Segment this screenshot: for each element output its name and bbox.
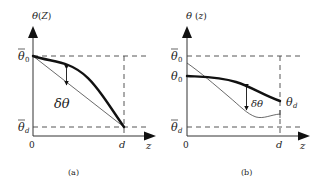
svg-text:d: d (293, 102, 298, 110)
y-axis-arrow-icon (182, 26, 192, 38)
y-axis-label: θ(Z) (32, 10, 51, 21)
svg-text:0: 0 (25, 56, 29, 64)
end-value-label: θ d (286, 96, 298, 110)
lower-bound-label: θ d (171, 120, 183, 135)
lower-bound-label: θ d (18, 120, 30, 135)
x-end-label: d (119, 139, 125, 150)
svg-text:θ: θ (171, 50, 178, 63)
x-end-label: d (276, 139, 282, 150)
svg-text:θ: θ (171, 121, 178, 134)
panel-a-caption: (a) (68, 168, 79, 177)
svg-text:θ: θ (18, 121, 25, 134)
panel-a: θ(Z) θ 0 θ d δθ 0 d z (a) (18, 10, 156, 177)
upper-bound-label: θ 0 (18, 49, 29, 64)
figure: θ(Z) θ 0 θ d δθ 0 d z (a) (0, 0, 324, 186)
svg-text:θ: θ (171, 70, 178, 83)
start-value-label: θ 0 (171, 70, 182, 84)
y-axis-arrow-icon (28, 26, 38, 38)
origin-label: 0 (183, 140, 189, 150)
svg-text:θ: θ (286, 96, 293, 109)
thin-linear-curve (33, 56, 124, 127)
svg-text:θ: θ (18, 50, 25, 63)
svg-text:d: d (178, 127, 183, 135)
thin-profile-curve (187, 63, 280, 118)
thick-profile-curve (187, 76, 280, 101)
delta-theta-label: δθ (54, 96, 70, 111)
svg-text:0: 0 (178, 56, 182, 64)
panel-b: θ (z) θ 0 θ 0 θ d θ d δθ 0 d z (b) (171, 10, 310, 177)
y-axis-label: θ (z) (186, 10, 207, 21)
svg-text:d: d (25, 127, 30, 135)
delta-theta-label: δθ (251, 98, 263, 109)
x-axis-label: z (145, 140, 152, 151)
panel-b-caption: (b) (241, 168, 252, 177)
upper-bound-label: θ 0 (171, 49, 182, 64)
svg-text:0: 0 (178, 76, 182, 84)
x-axis-label: z (299, 140, 306, 151)
origin-label: 0 (29, 140, 35, 150)
